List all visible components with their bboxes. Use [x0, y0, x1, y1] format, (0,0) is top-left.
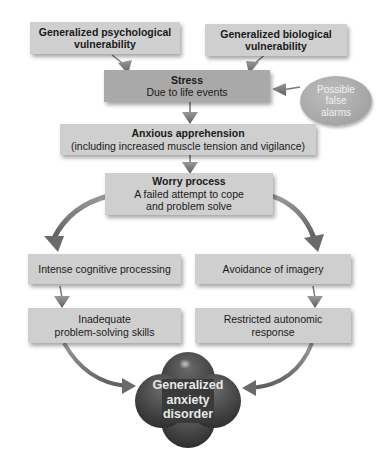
node-line: Restricted autonomic [224, 313, 323, 326]
node-label: alarms [317, 107, 355, 119]
node-label: anxiety [134, 393, 242, 408]
node-anxious-apprehension: Anxious apprehension (including increase… [60, 124, 316, 155]
arrow-restricted-to-gad [242, 343, 312, 396]
node-label: Generalized biological [220, 28, 331, 41]
node-title: Anxious apprehension [131, 127, 244, 140]
node-restricted-autonomic-response: Restricted autonomic response [195, 308, 351, 343]
node-worry-process: Worry process A failed attempt to cope a… [105, 173, 273, 215]
node-false-alarms: Possible false alarms [300, 76, 372, 126]
node-label: Generalized [134, 378, 242, 393]
node-subtitle: (including increased muscle tension and … [71, 140, 305, 153]
arrow-cognitive-to-inadequate [54, 286, 70, 308]
node-line: A failed attempt to cope [134, 188, 244, 201]
node-line: Inadequate [78, 313, 131, 326]
node-psychological-vulnerability: Generalized psychological vulnerability [30, 22, 180, 54]
node-line: problem-solving skills [55, 326, 155, 339]
node-intense-cognitive-processing: Intense cognitive processing [28, 254, 181, 284]
arrow-apprehension-to-worry [182, 155, 198, 174]
arrow-stress-to-apprehension [182, 102, 198, 124]
arrow-worry-to-cognitive [44, 196, 108, 252]
node-subtitle: Due to life events [146, 86, 227, 99]
node-inadequate-problem-solving: Inadequate problem-solving skills [28, 308, 181, 343]
node-line: response [251, 326, 294, 339]
arrow-avoidance-to-restricted [307, 286, 323, 308]
node-label: Possible [317, 84, 355, 96]
node-label: disorder [134, 407, 242, 422]
arrow-inadequate-to-gad [64, 343, 136, 394]
node-label: Generalized psychological [39, 26, 171, 39]
node-label: false [317, 95, 355, 107]
arrow-false-alarms-to-stress [272, 83, 300, 96]
node-label: Avoidance of imagery [223, 263, 324, 276]
node-stress: Stress Due to life events [104, 70, 270, 102]
node-title: Worry process [152, 175, 225, 188]
node-label: vulnerability [245, 40, 307, 53]
node-title: Stress [171, 74, 203, 87]
node-gad: Generalized anxiety disorder [134, 378, 242, 422]
arrow-worry-to-avoidance [272, 196, 324, 252]
node-label: Intense cognitive processing [38, 263, 171, 276]
node-biological-vulnerability: Generalized biological vulnerability [205, 24, 347, 56]
node-avoidance-of-imagery: Avoidance of imagery [195, 254, 351, 284]
node-line: and problem solve [146, 200, 232, 213]
node-label: vulnerability [74, 38, 136, 51]
